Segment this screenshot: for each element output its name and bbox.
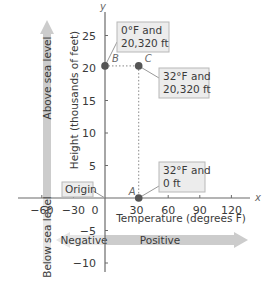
callout-a-text: 32°F and xyxy=(163,164,211,176)
callout-c-text: 32°F and xyxy=(163,70,211,82)
chart-svg: Above sea levelBelow sea levelNegativePo… xyxy=(0,0,270,281)
point-b xyxy=(101,62,109,70)
point-label-b: B xyxy=(112,53,119,64)
origin-label: Origin xyxy=(65,183,97,195)
point-a xyxy=(135,194,143,202)
callout-b-text: 20,320 ft xyxy=(121,37,169,49)
x-tick-label: −60 xyxy=(30,204,53,217)
y-tick-label: 20 xyxy=(82,62,96,75)
coordinate-plane-chart: Above sea levelBelow sea levelNegativePo… xyxy=(0,0,270,281)
callout-b-text: 0°F and xyxy=(121,24,162,36)
callout-a-text: 0 ft xyxy=(163,177,181,189)
y-tick-label: 15 xyxy=(82,95,96,108)
y-tick-label: −5 xyxy=(80,225,96,238)
data-points: BCA xyxy=(101,53,152,202)
y-axis-title: Height (thousands of feet) xyxy=(68,31,80,169)
x-axis-title: Temperature (degrees F) xyxy=(115,212,246,224)
x-tick-label: 0 xyxy=(92,204,99,217)
x-axis-symbol: x xyxy=(254,192,261,203)
dashed-guides xyxy=(105,66,139,198)
callout-c-text: 20,320 ft xyxy=(163,83,211,95)
y-tick-label: 5 xyxy=(89,160,96,173)
point-label-c: C xyxy=(145,53,152,64)
y-tick-label: 25 xyxy=(82,30,96,43)
y-tick-label: −10 xyxy=(73,257,96,270)
positive-label: Positive xyxy=(140,234,180,246)
y-axis-symbol: y xyxy=(99,1,107,12)
point-label-a: A xyxy=(128,186,136,197)
y-tick-label: 10 xyxy=(82,127,96,140)
above-sea-level-label: Above sea level xyxy=(41,37,53,120)
point-callouts: 0°F and20,320 ft32°F and20,320 ft32°F an… xyxy=(62,22,211,198)
point-c xyxy=(135,62,143,70)
x-tick-label: −30 xyxy=(62,204,85,217)
